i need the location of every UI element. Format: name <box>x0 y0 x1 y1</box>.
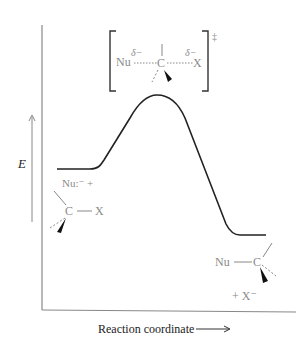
transition-state: ‡ Nu δ− C δ− X <box>110 31 217 91</box>
wedge-bond-icon <box>260 267 268 283</box>
energy-arrow-icon <box>29 115 35 222</box>
products: Nu C + X⁻ <box>215 243 276 303</box>
energy-curve <box>57 95 266 235</box>
reactants: Nu:⁻ + C X <box>50 177 104 233</box>
product-nu: Nu <box>215 255 230 269</box>
reactant-nu: Nu:⁻ + <box>62 177 93 189</box>
reactant-carbon: C <box>65 204 73 218</box>
x-axis <box>42 310 296 312</box>
x-axis-label: Reaction coordinate <box>98 322 194 336</box>
reactant-x: X <box>95 204 104 218</box>
energy-diagram: E ‡ Nu δ− C δ− X Nu:⁻ + C X Nu C + X⁻ <box>0 0 304 344</box>
reaction-arrow-icon <box>196 326 230 332</box>
ts-carbon: C <box>157 56 165 70</box>
ts-x: X <box>193 56 202 70</box>
ts-nu: Nu <box>116 55 131 69</box>
product-carbon: C <box>253 255 261 269</box>
product-x: + X⁻ <box>232 289 257 303</box>
y-axis-label: E <box>17 156 26 171</box>
double-dagger: ‡ <box>212 31 217 42</box>
ts-nu-charge: δ− <box>131 47 142 58</box>
wedge-bond-icon <box>164 70 172 82</box>
right-bracket <box>202 31 208 91</box>
